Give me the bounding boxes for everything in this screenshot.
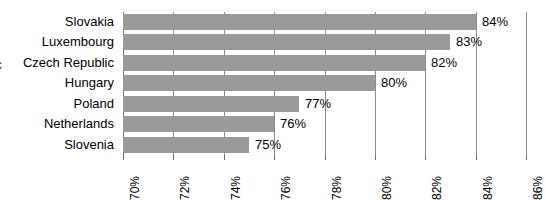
bar-value-label: 84%	[476, 12, 508, 32]
plot-area: 84%83%82%80%77%76%75%	[123, 12, 526, 155]
bar-row: 75%	[123, 135, 526, 155]
bar[interactable]	[123, 55, 425, 71]
bar-row: 84%	[123, 12, 526, 32]
bar-value-label: 83%	[450, 32, 482, 52]
bar-row: 80%	[123, 73, 526, 93]
x-axis-tick-label: 76%	[279, 158, 293, 200]
x-axis-tick-label: 80%	[380, 158, 394, 200]
x-axis-tick-label: 70%	[128, 158, 142, 200]
x-axis-tick-label: 86%	[531, 158, 545, 200]
x-axis-tick-label: 74%	[229, 158, 243, 200]
category-label: Poland	[74, 94, 114, 114]
bar-value-label: 75%	[249, 135, 281, 155]
x-axis-tick-label: 78%	[330, 158, 344, 200]
bar[interactable]	[123, 75, 375, 91]
x-axis-tick-label: 72%	[178, 158, 192, 200]
gridline	[526, 12, 527, 155]
bar-row: 82%	[123, 53, 526, 73]
bar[interactable]	[123, 116, 274, 132]
bar[interactable]	[123, 96, 299, 112]
bar-row: 76%	[123, 114, 526, 134]
x-axis-tick-mark	[526, 155, 527, 160]
bar[interactable]	[123, 14, 476, 30]
bar-value-label: 82%	[425, 53, 457, 73]
bar-row: 83%	[123, 32, 526, 52]
x-axis-tick-label: 82%	[430, 158, 444, 200]
bar[interactable]	[123, 137, 249, 153]
bar-row: 77%	[123, 94, 526, 114]
category-label: Czech Republic	[23, 53, 114, 73]
bar-value-label: 76%	[274, 114, 306, 134]
bar-value-label: 77%	[299, 94, 331, 114]
category-axis: SlovakiaLuxembourgCzech RepublicHungaryP…	[0, 12, 118, 155]
x-axis-tick-label: 84%	[481, 158, 495, 200]
category-label: Netherlands	[44, 114, 114, 134]
bar[interactable]	[123, 34, 450, 50]
x-axis-tick-labels: 70%72%74%76%78%80%82%84%86%	[123, 158, 526, 200]
category-label: Slovenia	[64, 135, 114, 155]
category-label: Slovakia	[65, 12, 114, 32]
category-label: Luxembourg	[42, 32, 114, 52]
bar-value-label: 80%	[375, 73, 407, 93]
category-label: Hungary	[65, 73, 114, 93]
